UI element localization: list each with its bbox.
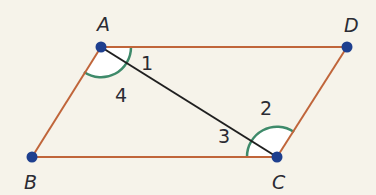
side-ba bbox=[32, 47, 101, 157]
angle-label-1: 1 bbox=[141, 52, 153, 74]
vertex-a bbox=[96, 42, 107, 53]
vertex-label-b: B bbox=[24, 171, 37, 193]
vertex-b bbox=[27, 152, 38, 163]
vertex-label-c: C bbox=[272, 171, 286, 193]
vertex-label-d: D bbox=[344, 14, 359, 36]
angle-label-3: 3 bbox=[218, 125, 230, 147]
vertex-label-a: A bbox=[95, 13, 110, 35]
parallelogram-diagram: A B C D 1 2 3 4 bbox=[0, 0, 376, 195]
vertex-c bbox=[272, 152, 283, 163]
vertex-d bbox=[342, 42, 353, 53]
side-dc bbox=[277, 47, 347, 157]
angle-label-4: 4 bbox=[115, 84, 127, 106]
angle-label-2: 2 bbox=[260, 97, 272, 119]
diagonal-ac bbox=[101, 47, 277, 157]
